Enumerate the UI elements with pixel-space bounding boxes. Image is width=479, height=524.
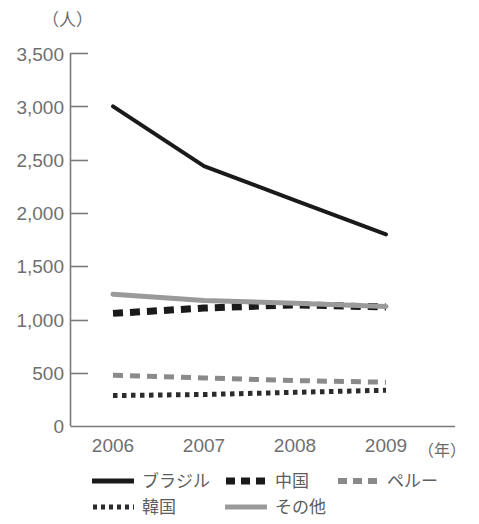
legend-label: ペルー xyxy=(387,473,438,490)
series-line xyxy=(113,106,386,234)
x-tick-label: 2009 xyxy=(365,436,407,455)
line-chart: （人） 3,500 3,000 2,500 2,000 1,500 1,000 … xyxy=(0,0,479,524)
series-line xyxy=(113,390,386,395)
data-series-layer xyxy=(113,106,386,395)
legend-swatch-dashed-black xyxy=(225,474,267,488)
legend-item-peru: ペルー xyxy=(337,468,438,494)
legend-swatch-solid-black xyxy=(92,474,134,488)
legend-item-korea: 韓国 xyxy=(92,494,176,520)
x-tick-label: 2008 xyxy=(274,436,316,455)
legend-row: 韓国 その他 xyxy=(0,494,479,520)
axes xyxy=(71,53,456,427)
x-axis-unit-label: （年） xyxy=(418,437,466,461)
x-axis-tick-labels: 2006 2007 2008 2009 xyxy=(0,436,479,462)
legend-item-china: 中国 xyxy=(225,468,309,494)
legend-item-brazil: ブラジル xyxy=(92,468,210,494)
legend-row: ブラジル 中国 ペルー xyxy=(0,468,479,494)
series-line xyxy=(113,375,386,382)
legend-label: ブラジル xyxy=(142,473,210,490)
legend-swatch-solid-gray xyxy=(225,500,267,514)
legend-label: 韓国 xyxy=(142,499,176,516)
x-tick-label: 2006 xyxy=(92,436,134,455)
chart-legend: ブラジル 中国 ペルー 韓国 xyxy=(0,468,479,524)
legend-swatch-dashed-gray xyxy=(337,474,379,488)
legend-swatch-dotted-black xyxy=(92,500,134,514)
legend-item-other: その他 xyxy=(225,494,326,520)
plot-area xyxy=(0,0,479,470)
legend-label: 中国 xyxy=(275,473,309,490)
x-tick-label: 2007 xyxy=(183,436,225,455)
legend-label: その他 xyxy=(275,499,326,516)
